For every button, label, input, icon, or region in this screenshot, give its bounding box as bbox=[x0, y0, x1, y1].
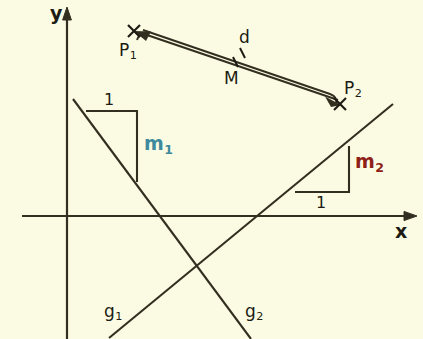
point-label-p2: P2 bbox=[344, 80, 362, 97]
point-label-p2-base: P bbox=[344, 78, 354, 98]
geometry-diagram: y x P1 P2 d M 1 1 m1 m2 g1 g2 bbox=[0, 0, 423, 339]
line-label-g1: g1 bbox=[104, 303, 122, 320]
slope-triangle-m1 bbox=[86, 110, 138, 182]
slope-label-m2: m2 bbox=[355, 152, 384, 171]
line-label-g2-sub: 2 bbox=[256, 310, 264, 323]
run-label-m2-one: 1 bbox=[316, 195, 326, 211]
tick-d-on-upper-rail bbox=[240, 48, 245, 58]
point-label-p1-sub: 1 bbox=[129, 49, 137, 62]
x-axis-label: x bbox=[395, 222, 407, 241]
point-label-p1: P1 bbox=[119, 42, 137, 59]
line-label-g2-base: g bbox=[245, 301, 256, 321]
point-label-p2-sub: 2 bbox=[354, 87, 362, 100]
line-label-g1-sub: 1 bbox=[115, 310, 123, 323]
point-label-p1-base: P bbox=[119, 40, 129, 60]
slope-label-m2-sub: 2 bbox=[375, 160, 384, 175]
y-axis-arrowhead bbox=[63, 7, 72, 20]
slope-label-m1: m1 bbox=[144, 134, 173, 153]
marker-x-p1 bbox=[128, 25, 140, 37]
midpoint-label-m: M bbox=[224, 70, 239, 87]
slope-label-m1-base: m bbox=[144, 132, 164, 154]
distance-label-d: d bbox=[239, 29, 250, 46]
slope-label-m1-sub: 1 bbox=[164, 142, 173, 157]
line-label-g1-base: g bbox=[104, 301, 115, 321]
slope-triangle-m2 bbox=[295, 146, 350, 193]
y-axis-label: y bbox=[50, 4, 62, 23]
line-label-g2: g2 bbox=[245, 303, 263, 320]
run-label-m1-one: 1 bbox=[104, 92, 114, 108]
slope-label-m2-base: m bbox=[355, 150, 375, 172]
